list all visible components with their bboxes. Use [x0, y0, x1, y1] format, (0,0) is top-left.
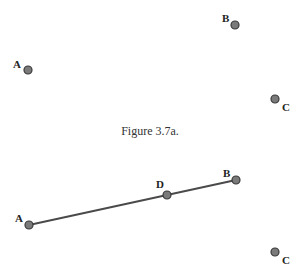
label-c: C	[282, 254, 290, 266]
point-a: A	[13, 58, 32, 74]
point-a: A	[15, 212, 33, 229]
label-a: A	[15, 212, 23, 224]
figure-3-7b: A D B C	[15, 167, 290, 266]
segment-ab	[29, 180, 236, 225]
point-c: C	[271, 95, 290, 113]
point-b: B	[222, 12, 239, 29]
label-c: C	[282, 101, 290, 113]
point-d: D	[156, 178, 171, 199]
label-a: A	[13, 58, 21, 70]
figure-3-7a: A B C Figure 3.7a.	[13, 12, 290, 138]
label-b: B	[223, 167, 231, 179]
label-d: D	[156, 178, 164, 190]
geometry-figures: A B C Figure 3.7a. A D B C	[0, 0, 301, 280]
figure-caption: Figure 3.7a.	[121, 124, 179, 138]
point-c: C	[271, 248, 290, 266]
label-b: B	[222, 12, 230, 24]
